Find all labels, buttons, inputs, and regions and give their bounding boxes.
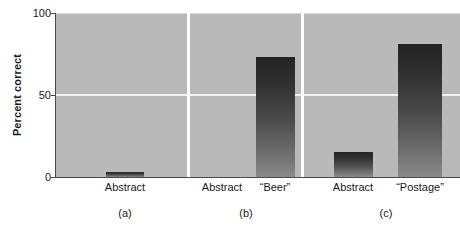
x-axis-labels: Abstract Abstract “Beer” Abstract “Posta…: [56, 181, 460, 197]
y-tick-mark-0: [51, 177, 55, 178]
bar-panel-c-postage: [398, 44, 442, 177]
y-tick-mark-50: [51, 95, 55, 96]
x-axis-baseline: [56, 177, 460, 178]
bar-chart-figure: Percent correct 100 50 0 Abstract Abstra…: [0, 0, 460, 234]
panel-divider-a-b: [187, 13, 190, 177]
caption-panel-a: (a): [118, 207, 131, 219]
panel-divider-b-c: [301, 13, 304, 177]
plot-area: [56, 13, 460, 177]
y-tick-mark-100: [51, 13, 55, 14]
x-tick-panel-c-abstract: Abstract: [333, 181, 373, 193]
gridline-100: [56, 13, 460, 14]
bar-panel-c-abstract: [334, 152, 373, 177]
panel-captions: (a) (b) (c): [56, 207, 460, 223]
bar-panel-b-beer: [256, 57, 295, 177]
x-tick-panel-b-abstract: Abstract: [202, 181, 242, 193]
caption-panel-b: (b): [239, 207, 252, 219]
caption-panel-c: (c): [380, 207, 393, 219]
x-tick-panel-c-postage: “Postage”: [396, 181, 444, 193]
x-tick-panel-a-abstract: Abstract: [105, 181, 145, 193]
x-tick-panel-b-beer: “Beer”: [260, 181, 291, 193]
